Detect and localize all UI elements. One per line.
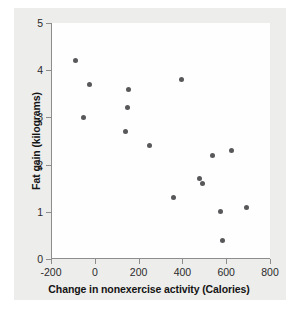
x-axis-label: Change in nonexercise activity (Calories… bbox=[0, 283, 298, 295]
data-point bbox=[126, 87, 131, 92]
data-point bbox=[218, 209, 223, 214]
x-axis-tick-label: -200 bbox=[40, 266, 61, 278]
x-axis-tick-label: 400 bbox=[174, 266, 192, 278]
y-axis-label: Fat gain (kilograms) bbox=[30, 23, 48, 259]
data-point bbox=[171, 195, 176, 200]
x-axis-tick-label: 0 bbox=[92, 266, 98, 278]
data-point-layer bbox=[52, 23, 271, 259]
x-axis-tick bbox=[95, 259, 96, 264]
x-axis-tick bbox=[139, 259, 140, 264]
data-point bbox=[244, 205, 249, 210]
plot-area bbox=[51, 23, 270, 259]
x-axis-tick-label: 800 bbox=[261, 266, 279, 278]
data-point bbox=[73, 58, 78, 63]
data-point bbox=[229, 148, 234, 153]
data-point bbox=[123, 129, 128, 134]
x-axis-tick-label: 600 bbox=[217, 266, 235, 278]
data-point bbox=[81, 115, 86, 120]
scatter-plot-figure: 012345 -2000200400600800 Change in nonex… bbox=[0, 0, 298, 316]
data-point bbox=[125, 105, 130, 110]
x-axis-tick bbox=[51, 259, 52, 264]
x-axis-tick bbox=[182, 259, 183, 264]
data-point bbox=[220, 238, 225, 243]
data-point bbox=[200, 181, 205, 186]
data-point bbox=[179, 77, 184, 82]
data-point bbox=[210, 153, 215, 158]
x-axis-tick bbox=[226, 259, 227, 264]
data-point bbox=[147, 143, 152, 148]
data-point bbox=[87, 82, 92, 87]
x-axis-tick bbox=[270, 259, 271, 264]
x-axis-tick-label: 200 bbox=[130, 266, 148, 278]
